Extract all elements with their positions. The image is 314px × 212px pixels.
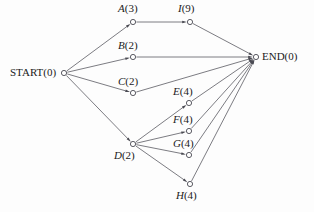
node-label-g: G(4) (173, 138, 194, 149)
node-c[interactable] (130, 90, 135, 95)
arrowhead-i-to-end (248, 52, 253, 55)
arrowhead-start-to-c (125, 90, 130, 93)
node-label-start: START(0) (10, 67, 56, 78)
node-letter-g: G (173, 137, 181, 149)
node-letter-h: H (176, 189, 184, 201)
node-label-h: H(4) (176, 190, 197, 201)
edge-g-to-end (191, 62, 253, 152)
edge-i-to-end (193, 24, 251, 55)
node-duration-i: (9) (182, 2, 195, 14)
node-duration-e: (4) (180, 85, 193, 97)
node-label-d: D(2) (114, 150, 135, 161)
node-duration-start: (0) (43, 66, 56, 78)
node-letter-a: A (118, 2, 125, 14)
edge-d-to-h (136, 146, 186, 181)
edge-start-to-b (67, 58, 127, 72)
node-label-i: I(9) (178, 3, 195, 14)
arrowhead-start-to-b (125, 57, 130, 60)
arrowhead-d-to-g (181, 152, 186, 155)
node-label-e: E(4) (173, 86, 193, 97)
node-h[interactable] (187, 181, 192, 186)
edges-group (66, 21, 254, 182)
node-i[interactable] (187, 19, 192, 24)
node-letter-b: B (118, 39, 125, 51)
node-e[interactable] (186, 100, 191, 105)
node-duration-c: (2) (125, 75, 138, 87)
node-start[interactable] (61, 70, 66, 75)
node-duration-b: (2) (125, 39, 138, 51)
node-label-a: A(3) (118, 3, 138, 14)
node-end[interactable] (253, 54, 258, 59)
node-letter-start: START (10, 66, 43, 78)
node-label-end: END(0) (262, 51, 297, 62)
arrowhead-a-to-i (182, 21, 187, 24)
network-graph (0, 0, 314, 212)
node-letter-end: END (262, 50, 285, 62)
node-duration-end: (0) (285, 50, 298, 62)
node-letter-f: F (173, 113, 180, 125)
node-d[interactable] (130, 141, 135, 146)
node-duration-g: (4) (181, 137, 194, 149)
node-label-b: B(2) (118, 40, 138, 51)
arrowhead-d-to-f (181, 131, 186, 134)
nodes-group (61, 19, 258, 186)
diagram-canvas: START(0)A(3)I(9)B(2)C(2)D(2)E(4)F(4)G(4)… (0, 0, 314, 212)
node-label-c: C(2) (118, 76, 138, 87)
node-duration-d: (2) (122, 149, 135, 161)
node-duration-h: (4) (184, 189, 197, 201)
edge-c-to-end (136, 59, 250, 92)
node-b[interactable] (130, 54, 135, 59)
node-f[interactable] (186, 128, 191, 133)
node-g[interactable] (186, 152, 191, 157)
node-letter-e: E (173, 85, 180, 97)
node-duration-f: (4) (180, 113, 193, 125)
node-label-f: F(4) (173, 114, 193, 125)
node-letter-d: D (114, 149, 122, 161)
node-a[interactable] (130, 19, 135, 24)
node-duration-a: (3) (125, 2, 138, 14)
